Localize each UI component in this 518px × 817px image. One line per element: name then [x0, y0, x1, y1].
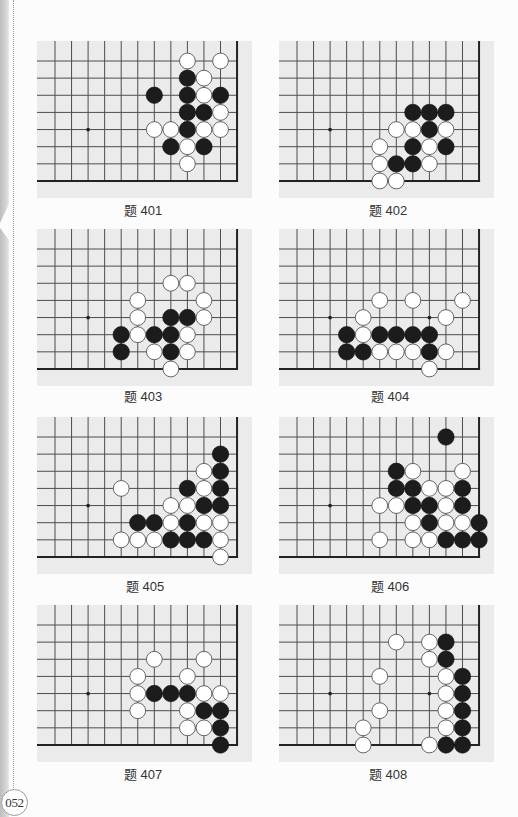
white-stone [422, 634, 438, 650]
go-board-problem-403 [37, 229, 252, 386]
white-stone [438, 514, 454, 530]
white-stone [422, 156, 438, 172]
black-stone [212, 463, 228, 479]
black-stone [179, 121, 195, 137]
black-stone [179, 87, 195, 103]
go-board-problem-405 [37, 417, 252, 574]
white-stone [438, 703, 454, 719]
black-stone [455, 497, 471, 513]
white-stone [146, 344, 162, 360]
black-stone [162, 685, 178, 701]
black-stone [388, 155, 404, 171]
problem-label-404: 题 404 [330, 388, 450, 406]
black-stone [146, 514, 162, 530]
page-number: 052 [5, 795, 24, 811]
black-stone [405, 497, 421, 513]
black-stone [405, 138, 421, 154]
go-board-problem-401 [37, 41, 252, 198]
black-stone [195, 531, 211, 547]
black-stone [212, 446, 228, 462]
white-stone [438, 310, 454, 326]
white-stone [389, 634, 405, 650]
black-stone [438, 737, 454, 753]
white-stone [405, 293, 421, 309]
black-stone [455, 668, 471, 684]
black-stone [179, 104, 195, 120]
black-stone [455, 737, 471, 753]
white-stone [356, 310, 372, 326]
black-stone [146, 685, 162, 701]
star-point [328, 316, 332, 320]
black-stone [471, 514, 487, 530]
black-stone [438, 428, 454, 444]
white-stone [356, 327, 372, 343]
white-stone [163, 514, 179, 530]
star-point [86, 503, 90, 507]
white-stone [438, 121, 454, 137]
board-background [279, 41, 494, 198]
star-point [86, 127, 90, 131]
black-stone [421, 121, 437, 137]
page-edge-band-top [0, 0, 9, 224]
black-stone [455, 685, 471, 701]
white-stone [130, 669, 146, 685]
problem-label-403: 题 403 [83, 388, 203, 406]
black-stone [421, 497, 437, 513]
black-stone [455, 531, 471, 547]
black-stone [162, 309, 178, 325]
star-point [86, 316, 90, 320]
black-stone [212, 737, 228, 753]
white-stone [196, 293, 212, 309]
white-stone [130, 293, 146, 309]
white-stone [389, 121, 405, 137]
white-stone [455, 463, 471, 479]
white-stone [163, 121, 179, 137]
margin-dotted-rule [13, 0, 14, 790]
white-stone [438, 497, 454, 513]
black-stone [438, 104, 454, 120]
black-stone [212, 497, 228, 513]
star-point [428, 316, 432, 320]
white-stone [196, 310, 212, 326]
white-stone [372, 532, 388, 548]
white-stone [422, 651, 438, 667]
black-stone [405, 327, 421, 343]
white-stone [196, 480, 212, 496]
board-background [37, 229, 252, 386]
white-stone [455, 293, 471, 309]
white-stone [130, 327, 146, 343]
black-stone [129, 514, 145, 530]
white-stone [179, 497, 195, 513]
white-stone [130, 703, 146, 719]
white-stone [212, 686, 228, 702]
white-stone [196, 70, 212, 86]
black-stone [471, 531, 487, 547]
black-stone [179, 480, 195, 496]
go-board-problem-406 [279, 417, 494, 574]
white-stone [212, 514, 228, 530]
star-point [86, 692, 90, 696]
black-stone [438, 651, 454, 667]
white-stone [196, 720, 212, 736]
white-stone [405, 514, 421, 530]
white-stone [196, 121, 212, 137]
white-stone [405, 344, 421, 360]
black-stone [388, 480, 404, 496]
go-board-problem-404 [279, 229, 494, 386]
white-stone [438, 480, 454, 496]
white-stone [179, 156, 195, 172]
star-point [428, 692, 432, 696]
star-point [328, 692, 332, 696]
white-stone [130, 532, 146, 548]
white-stone [372, 344, 388, 360]
white-stone [438, 344, 454, 360]
white-stone [212, 549, 228, 565]
white-stone [196, 651, 212, 667]
black-stone [195, 138, 211, 154]
black-stone [179, 70, 195, 86]
black-stone [388, 327, 404, 343]
white-stone [179, 344, 195, 360]
white-stone [372, 703, 388, 719]
white-stone [422, 737, 438, 753]
white-stone [146, 121, 162, 137]
